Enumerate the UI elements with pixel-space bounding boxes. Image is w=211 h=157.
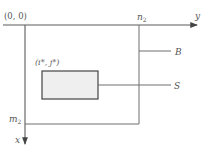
- region-s-label: S: [174, 81, 180, 91]
- region-b-label: B: [174, 47, 182, 57]
- subregion-corner-label: (i*, j*): [35, 58, 59, 67]
- origin-label: (0, 0): [4, 11, 27, 21]
- m2-label: m2: [9, 114, 22, 125]
- x-axis-label: x: [15, 135, 20, 145]
- n2-label: n2: [137, 12, 147, 23]
- y-axis-label: y: [194, 11, 201, 21]
- coordinate-diagram: (0, 0) y x n2 m2 B S (i*, j*): [0, 0, 211, 157]
- subregion-s: [42, 71, 98, 99]
